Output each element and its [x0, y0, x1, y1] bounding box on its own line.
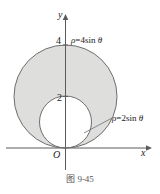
origin-label: O	[53, 150, 60, 160]
shaded-region	[0, 0, 160, 194]
inner-function-text: 2sin	[121, 113, 136, 123]
outer-circle-equation-label: ρ=4sin θ	[71, 36, 102, 45]
inner-circle-equation-label: ρ=2sin θ	[112, 114, 143, 123]
y-tick-label-2: 2	[57, 93, 62, 103]
y-axis-label: y	[58, 10, 62, 20]
figure-caption: 图 9-45	[0, 172, 160, 185]
polar-plot-svg	[0, 0, 160, 194]
outer-theta-symbol: θ	[98, 35, 102, 45]
x-axis-label: x	[141, 148, 145, 158]
outer-function-text: 4sin	[80, 35, 95, 45]
inner-theta-symbol: θ	[139, 113, 143, 123]
y-tick-label-4: 4	[56, 36, 61, 46]
figure-container: y x 4 2 O ρ=4sin θ ρ=2sin θ 图 9-45	[0, 0, 160, 194]
